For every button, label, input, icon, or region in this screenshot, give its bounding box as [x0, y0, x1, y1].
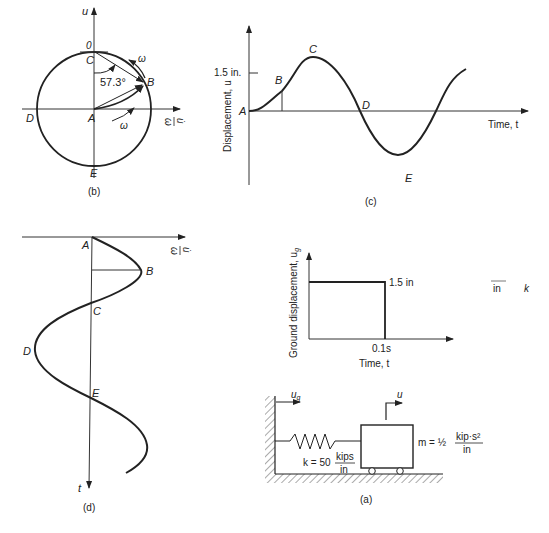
- panel-c-displacement-chart: 1.5 in. A B C D E Time, t Displacement, …: [214, 26, 528, 207]
- wall-hatch: [265, 396, 275, 474]
- spring: [275, 434, 361, 449]
- point-e-label: E: [90, 167, 98, 179]
- point-d-label: D: [23, 345, 31, 357]
- point-c-label: C: [93, 305, 101, 317]
- point-b-label: B: [146, 265, 153, 277]
- caption-d: (d): [83, 502, 95, 513]
- spring-units-num: kips: [336, 451, 354, 462]
- point-d-label: D: [362, 99, 370, 111]
- k-fragment: k: [524, 283, 530, 294]
- ground-displacement-chart: 1.5 in 0.1s Time, t Ground displacement,…: [288, 248, 453, 369]
- vector-a-b: [94, 85, 142, 109]
- point-c-label: C: [86, 54, 94, 66]
- point-a-label: A: [87, 112, 95, 124]
- in-fragment: in: [493, 283, 501, 294]
- stray-text-fragments: in k: [491, 281, 530, 294]
- u-axis-label: u: [82, 5, 88, 17]
- zero-label: 0: [86, 40, 92, 51]
- svg-text:ω: ω: [163, 118, 174, 126]
- svg-text:ω: ω: [169, 247, 180, 255]
- t-axis-label: t: [78, 482, 82, 494]
- point-c-label: C: [309, 43, 317, 55]
- udot-omega-label: u̇ ω: [163, 117, 186, 126]
- panel-a-spring-mass-system: ug u k = 50 kips in m = ½ kip·s² in (a): [265, 389, 483, 505]
- omega-bottom-label: ω: [120, 120, 128, 131]
- level-label: 1.5 in: [389, 277, 413, 288]
- wheel-right: [397, 468, 404, 475]
- point-b-label: B: [275, 74, 282, 86]
- svg-text:u̇: u̇: [175, 118, 186, 124]
- udot-omega-label: u̇ ω: [169, 246, 192, 255]
- floor-hatch: [265, 474, 443, 483]
- pulse-line: [309, 282, 385, 339]
- point-d-label: D: [26, 112, 34, 124]
- point-a-label: A: [238, 105, 246, 117]
- wheel-left: [369, 468, 376, 475]
- caption-c: (c): [365, 196, 377, 207]
- caption-b: (b): [88, 186, 100, 197]
- angle-arc: [94, 65, 115, 73]
- mass-label: m = ½: [418, 437, 447, 448]
- panel-b-phase-circle: u 0 C 57.3° B ω ω A D E u̇ ω (b): [22, 5, 186, 197]
- mass-arrow: [386, 403, 402, 420]
- mass-arrow-label: u: [397, 389, 403, 400]
- mass-block: [361, 425, 413, 468]
- spring-units-den: in: [340, 464, 348, 475]
- spring-label: k = 50: [303, 457, 331, 468]
- time-tick-label: 0.1s: [372, 343, 391, 354]
- mass-units-num: kip·s²: [456, 431, 481, 442]
- panel-d-velocity-chart: A B C D E t u̇ ω (d): [22, 237, 192, 513]
- point-b-label: B: [147, 76, 154, 88]
- x-axis-label: Time, t: [488, 119, 518, 130]
- svg-text:u̇: u̇: [181, 247, 192, 253]
- ground-arrow-label: ug: [291, 389, 301, 402]
- y-axis-label: Displacement, u: [222, 80, 233, 152]
- x-axis-label: Time, t: [359, 358, 389, 369]
- omega-top-label: ω: [138, 53, 146, 64]
- mass-units-den: in: [463, 444, 471, 455]
- y-tick-label: 1.5 in.: [214, 67, 241, 78]
- point-e-label: E: [405, 172, 413, 184]
- caption-a: (a): [360, 494, 372, 505]
- figure-canvas: u 0 C 57.3° B ω ω A D E u̇ ω (b) 1.5 in.…: [0, 0, 549, 533]
- y-axis-label: Ground displacement, ug: [288, 248, 301, 358]
- angle-label: 57.3°: [100, 76, 126, 88]
- point-a-label: A: [81, 239, 89, 251]
- point-e-label: E: [92, 387, 100, 399]
- t-axis: [89, 237, 92, 488]
